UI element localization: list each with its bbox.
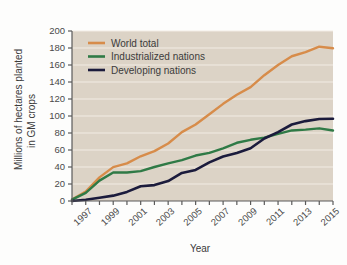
x-tick-label: 2009 [236, 205, 259, 227]
y-axis-title-line-2: in GM crops [26, 94, 37, 148]
y-tick-label: 160 [49, 59, 65, 70]
y-tick-label: 100 [49, 110, 65, 121]
y-tick-label: 120 [49, 93, 65, 104]
legend-label-industrialized-nations: Industrialized nations [111, 51, 205, 62]
x-tick-label: 2005 [181, 205, 204, 227]
x-tick-label: 1999 [98, 205, 121, 227]
line-chart: 020406080100120140160180200 199719992001… [0, 0, 347, 265]
x-tick-label: 2013 [291, 205, 314, 227]
x-tick-label: 2001 [126, 205, 149, 227]
x-tick-label: 2007 [208, 205, 231, 227]
x-tick-label: 2015 [318, 205, 341, 227]
x-tick-label: 1997 [71, 205, 94, 227]
y-tick-label: 60 [54, 144, 65, 155]
x-axis-tick-labels: 1997199920012003200520072009201120132015 [71, 201, 341, 228]
y-tick-label: 80 [54, 127, 65, 138]
y-axis-title-line-1: Millions of hectares planted [13, 49, 24, 170]
y-tick-label: 200 [49, 25, 65, 36]
legend-label-world-total: World total [111, 38, 159, 49]
y-tick-label: 140 [49, 76, 65, 87]
y-tick-label: 40 [54, 161, 65, 172]
x-axis-title: Year [190, 243, 211, 254]
legend-label-developing-nations: Developing nations [111, 65, 196, 76]
y-tick-label: 180 [49, 42, 65, 53]
x-tick-label: 2003 [153, 205, 176, 227]
x-tick-label: 2011 [264, 205, 287, 227]
y-axis-tick-labels: 020406080100120140160180200 [49, 25, 72, 206]
chart-figure: 020406080100120140160180200 199719992001… [0, 0, 347, 265]
y-tick-label: 20 [54, 178, 65, 189]
y-tick-label: 0 [60, 195, 65, 206]
